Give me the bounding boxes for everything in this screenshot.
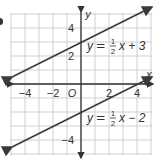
- coordinate-plane: −4−22442−4Oxyy ==12x + 3y ==12x − 2: [0, 0, 162, 164]
- x-tick-label: −4: [19, 87, 32, 99]
- y-tick-label: 2: [68, 50, 74, 62]
- equation-label-2-eq: =: [98, 111, 105, 125]
- equation-label-1-numerator: 1: [111, 37, 116, 46]
- x-tick-label: 4: [134, 87, 140, 99]
- equation-label-1-denominator: 2: [111, 47, 116, 56]
- equation-label-2-denominator: 2: [111, 119, 116, 128]
- equation-label-1-rhs: x + 3: [118, 39, 146, 53]
- equation-label-2-numerator: 1: [111, 109, 116, 118]
- y-tick-label: 4: [68, 22, 74, 34]
- x-tick-label: −2: [47, 87, 60, 99]
- x-tick-label: 2: [106, 87, 112, 99]
- x-axis-label: x: [145, 68, 152, 80]
- equation-label-2-rhs: x − 2: [118, 111, 146, 125]
- equation-label-1-eq: =: [98, 39, 105, 53]
- y-tick-label: −4: [61, 134, 74, 146]
- origin-label: O: [68, 87, 77, 99]
